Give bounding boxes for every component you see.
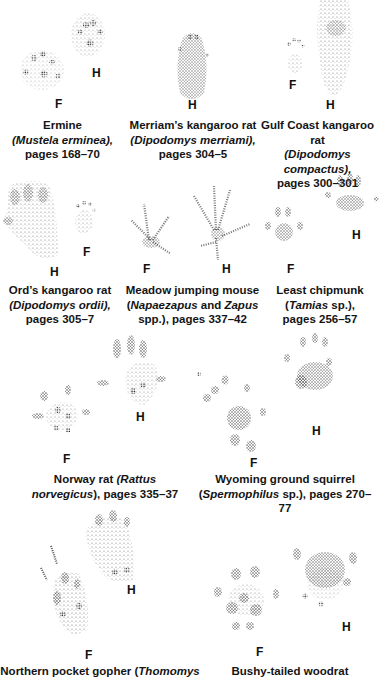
norway-rat-hind-track bbox=[95, 335, 175, 415]
hind-label: H bbox=[312, 424, 321, 438]
chipmunk-hind-track bbox=[320, 165, 380, 220]
ground-squirrel-hind-track bbox=[275, 330, 345, 405]
common-name: Least chipmunk bbox=[260, 283, 380, 298]
scientific-name: Rattus bbox=[120, 473, 156, 485]
hind-label: H bbox=[188, 98, 197, 112]
common-name: Ermine bbox=[0, 118, 125, 133]
chipmunk-front-track bbox=[262, 200, 307, 255]
merriams-hind-track bbox=[170, 25, 215, 105]
caption-ords: Ord’s kangaroo rat (Dipodomys ordii), pa… bbox=[0, 283, 120, 327]
common-name: Northern pocket gopher ( bbox=[0, 665, 138, 677]
scientific-name: Mustela erminea bbox=[16, 134, 106, 146]
common-name: Merriam’s kangaroo rat bbox=[128, 118, 258, 133]
hind-label: H bbox=[326, 98, 335, 112]
common-name: Ord’s kangaroo rat bbox=[0, 283, 120, 298]
hind-label: H bbox=[352, 228, 361, 242]
page-reference: sp.), pages 270–77 bbox=[279, 488, 372, 515]
hind-label: H bbox=[222, 262, 231, 276]
scientific-name-2: Zapus bbox=[224, 299, 258, 311]
front-label: F bbox=[250, 456, 257, 470]
ermine-front-track bbox=[10, 40, 70, 100]
caption-ground-squirrel: Wyoming ground squirrel (Spermophilus sp… bbox=[195, 472, 375, 516]
hind-label: H bbox=[50, 265, 59, 279]
caption-chipmunk: Least chipmunk (Tamias sp.), pages 256–5… bbox=[260, 283, 380, 327]
common-name: Wyoming ground squirrel bbox=[195, 472, 375, 487]
ground-squirrel-front-track bbox=[195, 360, 270, 450]
scientific-name: Spermophilus bbox=[203, 488, 280, 500]
hind-label: H bbox=[342, 620, 351, 634]
front-label: F bbox=[289, 78, 296, 92]
common-name: Norway rat bbox=[54, 473, 117, 485]
woodrat-front-track bbox=[210, 560, 280, 635]
pocket-gopher-front-track bbox=[35, 540, 100, 640]
ords-front-track bbox=[70, 198, 100, 243]
caption-woodrat: Bushy-tailed woodrat bbox=[200, 664, 380, 679]
scientific-name: Dipodomys ordii bbox=[13, 299, 104, 311]
caption-ermine: Ermine (Mustela erminea), pages 168–70 bbox=[0, 118, 125, 162]
hind-label: H bbox=[92, 66, 101, 80]
front-label: F bbox=[55, 97, 62, 111]
caption-jumping-mouse: Meadow jumping mouse (Napaezapus and Zap… bbox=[125, 283, 260, 327]
front-label: F bbox=[63, 452, 70, 466]
page-reference: ), pages 335–37 bbox=[93, 488, 178, 500]
caption-pocket-gopher: Northern pocket gopher (Thomomys bbox=[0, 664, 200, 679]
caption-norway-rat: Norway rat (Rattus norvegicus), pages 33… bbox=[20, 472, 190, 501]
front-label: F bbox=[287, 262, 294, 276]
page-reference: pages 304–5 bbox=[128, 147, 258, 162]
scientific-name: Dipodomys merriami bbox=[134, 134, 248, 146]
page-reference: pages 168–70 bbox=[0, 147, 125, 162]
page-reference: pages 256–57 bbox=[260, 312, 380, 327]
common-name: Gulf Coast kangaroo rat bbox=[255, 118, 380, 147]
jumping-mouse-hind-track bbox=[190, 180, 255, 265]
page-reference: spp.), pages 337–42 bbox=[125, 312, 260, 327]
gulf-coast-front-track bbox=[280, 30, 310, 80]
front-label: F bbox=[256, 645, 263, 659]
common-name: Meadow jumping mouse bbox=[125, 283, 260, 298]
ords-hind-track bbox=[0, 175, 65, 265]
caption-merriams: Merriam’s kangaroo rat (Dipodomys merria… bbox=[128, 118, 258, 162]
front-label: F bbox=[83, 245, 90, 259]
hind-label: H bbox=[136, 410, 145, 424]
scientific-name: Tamias bbox=[289, 299, 328, 311]
hind-label: H bbox=[127, 583, 136, 597]
front-label: F bbox=[143, 262, 150, 276]
scientific-name: Napaezapus bbox=[131, 299, 198, 311]
jumping-mouse-front-track bbox=[125, 200, 180, 260]
woodrat-hind-track bbox=[285, 540, 365, 610]
front-label: F bbox=[85, 648, 92, 662]
common-name: Bushy-tailed woodrat bbox=[200, 664, 380, 679]
page-reference: pages 305–7 bbox=[0, 312, 120, 327]
norway-rat-front-track bbox=[30, 380, 95, 440]
scientific-name: Thomomys bbox=[138, 665, 199, 677]
